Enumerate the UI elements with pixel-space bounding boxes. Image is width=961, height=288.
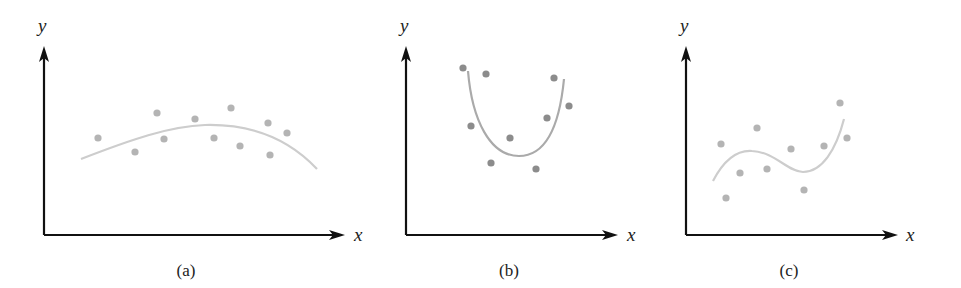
data-point — [236, 142, 243, 149]
data-point — [736, 169, 743, 176]
data-point — [787, 145, 794, 152]
data-point — [153, 109, 160, 116]
data-point — [131, 148, 138, 155]
data-point — [482, 70, 489, 77]
panel-a: y x (a) — [36, 15, 363, 280]
caption: (a) — [177, 261, 196, 280]
data-point — [467, 122, 474, 129]
data-point — [487, 159, 494, 166]
fitted-curve — [713, 119, 844, 181]
data-point — [266, 151, 273, 158]
data-point — [800, 186, 807, 193]
data-point — [264, 119, 271, 126]
data-point — [843, 134, 850, 141]
caption: (c) — [780, 261, 799, 280]
y-label: y — [36, 15, 47, 36]
data-point — [160, 135, 167, 142]
figure: y x (a) y x (b) y x (c) — [0, 0, 961, 288]
data-points — [94, 104, 290, 158]
panel-b: y x (b) — [398, 15, 636, 280]
data-point — [753, 124, 760, 131]
y-label: y — [398, 15, 409, 36]
data-point — [717, 140, 724, 147]
panel-c: y x (c) — [678, 15, 915, 280]
data-point — [94, 134, 101, 141]
data-point — [506, 134, 513, 141]
data-point — [820, 142, 827, 149]
data-point — [550, 74, 557, 81]
fitted-curve — [81, 125, 317, 169]
y-label: y — [678, 15, 689, 36]
x-label: x — [905, 224, 915, 245]
data-point — [210, 134, 217, 141]
data-point — [227, 104, 234, 111]
data-point — [532, 165, 539, 172]
data-point — [191, 115, 198, 122]
data-point — [543, 114, 550, 121]
data-point — [836, 99, 843, 106]
data-point — [283, 129, 290, 136]
data-point — [459, 64, 466, 71]
caption: (b) — [499, 261, 519, 280]
data-point — [565, 102, 572, 109]
x-label: x — [353, 224, 363, 245]
fitted-curve — [468, 71, 564, 156]
data-points — [717, 99, 850, 201]
data-point — [763, 165, 770, 172]
x-label: x — [626, 224, 636, 245]
data-point — [722, 194, 729, 201]
